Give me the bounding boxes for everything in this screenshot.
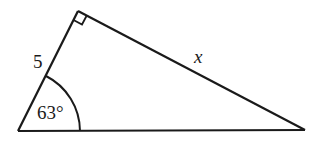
side-top-right	[78, 11, 305, 130]
unknown-side-label: x	[194, 47, 202, 66]
side-length-label: 5	[33, 52, 43, 71]
angle-label: 63°	[37, 103, 64, 122]
triangle-diagram: 5 63° x	[0, 0, 313, 141]
side-bottom	[18, 130, 305, 131]
